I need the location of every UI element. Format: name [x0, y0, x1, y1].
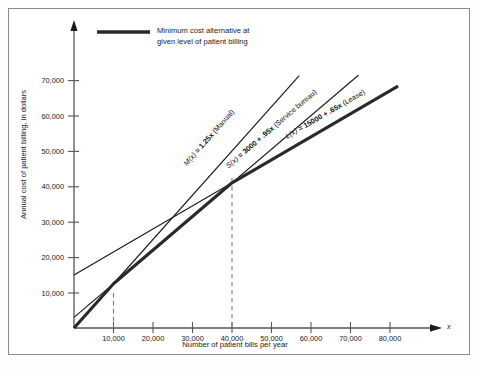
chart-figure: Minimum cost alternative at given level … — [0, 0, 478, 370]
x-axis-arrow — [430, 324, 442, 332]
y-axis-arrow — [70, 20, 77, 31]
chart-plot-area — [0, 0, 478, 370]
legend-label-line1: Minimum cost alternative at — [157, 26, 249, 37]
y-axis-title: Annual cost of patient billing, in dolla… — [19, 55, 28, 255]
legend-label: Minimum cost alternative at given level … — [157, 26, 249, 47]
legend-label-line2: given level of patient billing — [157, 37, 249, 48]
x-axis-variable-label: x — [447, 322, 451, 331]
minimum-cost-envelope — [74, 86, 398, 328]
y-tick-label: 10,000 — [14, 289, 64, 298]
x-axis-title: Number of patient bills per year — [110, 340, 360, 349]
x-tick-label: 80,000 — [370, 334, 410, 343]
